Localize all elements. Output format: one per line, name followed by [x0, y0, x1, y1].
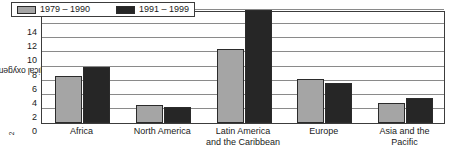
bars-layer [42, 12, 444, 123]
bar [136, 105, 163, 123]
y-tick-label: 10 [27, 56, 37, 65]
plot-area [41, 11, 445, 124]
bar [406, 98, 433, 123]
y-axis-tick-labels: 02468101214 [18, 18, 40, 124]
y-tick-label: 6 [32, 84, 37, 93]
legend-entry: 1979 – 1990 [17, 5, 90, 14]
bar [83, 67, 110, 124]
legend-swatch [116, 6, 135, 14]
y-tick-label: 14 [27, 28, 37, 37]
y-tick-label: 2 [32, 112, 37, 121]
legend-swatch [17, 6, 36, 14]
y-tick-label: 12 [27, 42, 37, 51]
bar [245, 10, 272, 123]
bar [55, 76, 82, 123]
bar [164, 107, 191, 123]
y-axis-title-subscript: 2 [8, 132, 15, 136]
y-tick-label: 8 [32, 70, 37, 79]
chart-figure: Biological oxygen demand [mg/L O2] 02468… [0, 0, 463, 167]
x-tick-label: Asia and the Pacific [354, 126, 455, 148]
y-axis-title: Biological oxygen demand [mg/L O2] [0, 0, 18, 142]
bar [325, 83, 352, 123]
bar [297, 79, 324, 123]
legend-label: 1991 – 1999 [139, 5, 189, 14]
y-tick-label: 4 [32, 98, 37, 107]
legend-label: 1979 – 1990 [40, 5, 90, 14]
x-axis-category-labels: AfricaNorth AmericaLatin America and the… [41, 126, 445, 167]
legend-entry: 1991 – 1999 [116, 5, 189, 14]
chart-legend: 1979 – 19901991 – 1999 [11, 2, 195, 17]
bar [217, 49, 244, 123]
bar [378, 103, 405, 123]
